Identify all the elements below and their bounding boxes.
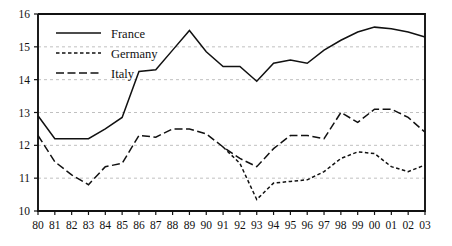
x-tick-label: 86 bbox=[133, 219, 145, 231]
series-line-france bbox=[38, 27, 425, 139]
chart-legend: FranceGermanyItaly bbox=[56, 27, 158, 81]
series-line-italy bbox=[38, 109, 425, 185]
y-tick-label: 16 bbox=[19, 8, 31, 20]
y-tick-label: 10 bbox=[19, 205, 31, 217]
y-axis-ticks: 10111213141516 bbox=[19, 8, 39, 217]
y-tick-label: 12 bbox=[19, 139, 31, 151]
x-tick-label: 02 bbox=[402, 219, 414, 231]
y-tick-label: 13 bbox=[19, 107, 31, 119]
x-tick-label: 80 bbox=[32, 219, 44, 231]
x-tick-label: 82 bbox=[66, 219, 78, 231]
x-tick-label: 84 bbox=[100, 219, 112, 231]
x-tick-label: 81 bbox=[49, 219, 61, 231]
x-tick-label: 90 bbox=[201, 219, 213, 231]
legend-label-france: France bbox=[111, 27, 145, 41]
y-tick-label: 14 bbox=[19, 74, 31, 86]
x-tick-label: 97 bbox=[318, 219, 330, 231]
x-tick-label: 87 bbox=[150, 219, 162, 231]
y-tick-label: 11 bbox=[19, 172, 30, 184]
chart-canvas: 10111213141516 8081828384858687888990919… bbox=[0, 0, 452, 246]
x-tick-label: 91 bbox=[217, 219, 229, 231]
x-tick-label: 94 bbox=[268, 219, 280, 231]
series-lines bbox=[38, 27, 425, 199]
x-tick-label: 83 bbox=[83, 219, 95, 231]
y-tick-label: 15 bbox=[19, 41, 31, 53]
legend-label-germany: Germany bbox=[111, 47, 158, 61]
x-axis-ticks: 8081828384858687888990919293949596979899… bbox=[32, 211, 431, 231]
x-tick-label: 03 bbox=[419, 219, 431, 231]
x-tick-label: 96 bbox=[301, 219, 313, 231]
line-chart-figure: 10111213141516 8081828384858687888990919… bbox=[0, 0, 452, 246]
x-tick-label: 01 bbox=[386, 219, 398, 231]
x-tick-label: 95 bbox=[285, 219, 297, 231]
x-tick-label: 00 bbox=[369, 219, 381, 231]
x-tick-label: 99 bbox=[352, 219, 364, 231]
x-tick-label: 89 bbox=[184, 219, 196, 231]
x-tick-label: 93 bbox=[251, 219, 263, 231]
legend-label-italy: Italy bbox=[111, 67, 135, 81]
series-line-germany bbox=[223, 147, 425, 200]
x-tick-label: 92 bbox=[234, 219, 246, 231]
x-tick-label: 88 bbox=[167, 219, 179, 231]
x-tick-label: 98 bbox=[335, 219, 347, 231]
x-tick-label: 85 bbox=[116, 219, 128, 231]
